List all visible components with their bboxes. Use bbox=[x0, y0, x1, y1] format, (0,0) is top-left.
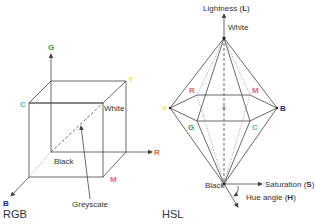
rgb-cube: G R B C Y M White Black Greyscale RGB bbox=[3, 43, 160, 220]
hsl-black-label: Black bbox=[205, 181, 226, 190]
hue-angle-label: Hue angle (H) bbox=[246, 193, 296, 202]
greyscale-label: Greyscale bbox=[72, 200, 109, 209]
rgb-white-label: White bbox=[104, 104, 125, 113]
hue-direction-arrow bbox=[224, 184, 238, 207]
greyscale-diagonal bbox=[51, 103, 103, 152]
hsl-white-label: White bbox=[228, 23, 249, 32]
hue-angle-arc bbox=[234, 186, 238, 196]
cube-top-face bbox=[29, 81, 126, 103]
rgb-label-g: G bbox=[48, 43, 54, 52]
hsl-label-g: G bbox=[188, 123, 194, 132]
rgb-label-c: C bbox=[20, 100, 26, 109]
rgb-black-label: Black bbox=[54, 157, 75, 166]
rgb-label-y: Y bbox=[128, 75, 134, 84]
greyscale-pointer bbox=[81, 126, 90, 199]
b-axis-arrow bbox=[11, 177, 29, 196]
rgb-label-b: B bbox=[3, 199, 9, 208]
rgb-label-r: R bbox=[154, 148, 160, 157]
hsl-label-r: R bbox=[189, 86, 195, 95]
hsl-label-c: C bbox=[252, 123, 258, 132]
hsl-label-b: B bbox=[280, 104, 286, 113]
hsl-label-m: M bbox=[252, 86, 259, 95]
hsl-label-y: Y bbox=[162, 104, 168, 113]
color-models-diagram: G R B C Y M White Black Greyscale RGB bbox=[0, 0, 316, 224]
saturation-label: Saturation (S) bbox=[265, 180, 315, 189]
hsl-caption: HSL bbox=[162, 208, 183, 220]
hsl-double-cone: Lightness (L) White Black Saturation (S)… bbox=[162, 4, 315, 220]
rgb-caption: RGB bbox=[3, 208, 27, 220]
lightness-label: Lightness (L) bbox=[203, 4, 250, 13]
rgb-label-m: M bbox=[110, 175, 117, 184]
hue-hexagon bbox=[170, 95, 277, 121]
